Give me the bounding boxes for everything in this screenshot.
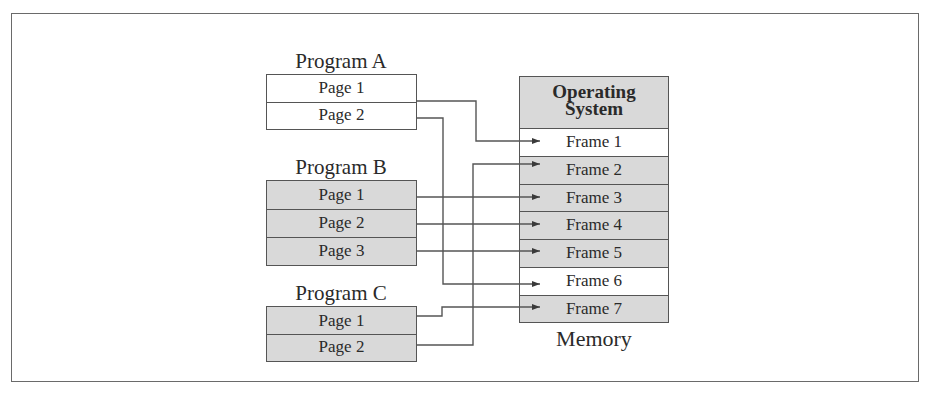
arrow-a1-frame1: [417, 101, 540, 141]
mapping-arrows: [0, 0, 932, 395]
arrow-c1-frame7: [417, 307, 540, 316]
arrow-a2-frame6: [417, 118, 540, 284]
arrow-c2-frame2: [417, 164, 540, 345]
